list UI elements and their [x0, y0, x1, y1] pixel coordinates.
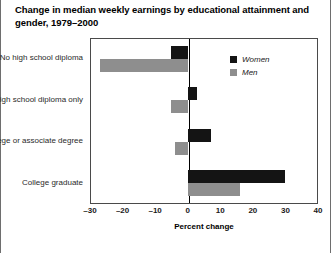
x-tick-label: –20 — [108, 206, 138, 215]
x-tick-label: 20 — [238, 206, 268, 215]
bar-men — [188, 183, 240, 196]
chart-legend: Women Men — [230, 54, 270, 80]
x-tick-label: 0 — [173, 206, 203, 215]
bar-men — [100, 59, 188, 72]
chart-figure: Change in median weekly earnings by educ… — [0, 0, 331, 253]
legend-item-men: Men — [230, 67, 270, 78]
bar-women — [188, 87, 198, 100]
bar-women — [188, 170, 286, 183]
x-tick-label: –10 — [140, 206, 170, 215]
legend-item-women: Women — [230, 54, 270, 65]
x-axis-title: Percent change — [90, 222, 318, 231]
legend-swatch-men-icon — [230, 69, 237, 76]
x-tick-label: 10 — [205, 206, 235, 215]
legend-swatch-women-icon — [230, 56, 237, 63]
bar-men — [175, 142, 188, 155]
legend-label-women: Women — [242, 55, 270, 64]
x-tick-label: 30 — [270, 206, 300, 215]
x-tick-label: 40 — [303, 206, 331, 215]
category-label: High school diploma only — [0, 95, 83, 106]
legend-label-men: Men — [242, 68, 258, 77]
x-tick-label: –30 — [75, 206, 105, 215]
bar-women — [188, 129, 211, 142]
chart-title: Change in median weekly earnings by educ… — [15, 4, 315, 29]
bar-men — [171, 100, 187, 113]
category-label: No high school diploma — [0, 53, 83, 64]
category-label: Some college or associate degree — [0, 136, 83, 147]
category-label: College graduate — [0, 178, 83, 189]
bar-women — [171, 46, 187, 59]
